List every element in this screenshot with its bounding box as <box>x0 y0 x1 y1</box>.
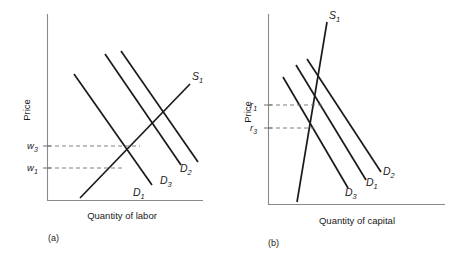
panel-b-demand-curve-d1 <box>296 65 366 180</box>
panel-b-x-axis-title: Quantity of capital <box>319 215 395 226</box>
economics-supply-demand-figure: w3 w1 S1 D2 D3 D1 Price Quantity of labo… <box>0 0 453 259</box>
panel-a-x-axis-title: Quantity of labor <box>87 210 157 221</box>
panel-a-label-d2: D2 <box>180 162 193 177</box>
panel-a-label-d3: D3 <box>160 174 173 189</box>
panel-b-price-label-r3: r3 <box>250 122 257 135</box>
panel-b-y-axis-title: Price <box>242 101 253 123</box>
panel-b-supply-curve-s1 <box>297 22 327 202</box>
panel-a-supply-curve-s1 <box>80 84 190 198</box>
panel-a-y-axis-title: Price <box>21 99 32 121</box>
panel-a-label-d1: D1 <box>133 186 145 201</box>
panel-a-caption: (a) <box>48 233 59 243</box>
panel-b-label-s1: S1 <box>329 9 340 24</box>
panel-b-label-d2: D2 <box>383 165 396 180</box>
panel-a-demand-curve-d3 <box>105 54 181 165</box>
panel-b-caption: (b) <box>268 238 279 248</box>
panel-a-price-label-w3: w3 <box>27 140 38 153</box>
panel-b-demand-curve-d2 <box>307 59 381 172</box>
panel-b: r1 r3 S1 D2 D1 D3 Price Quantity of capi… <box>242 9 445 248</box>
panel-b-label-d1: D1 <box>366 176 378 191</box>
panel-b-axes <box>269 14 446 205</box>
panel-b-label-d3: D3 <box>345 186 358 201</box>
panel-a-price-label-w1: w1 <box>27 162 38 175</box>
panel-a-label-s1: S1 <box>192 70 203 85</box>
panel-a-demand-curve-d2 <box>121 51 198 162</box>
panel-a: w3 w1 S1 D2 D3 D1 Price Quantity of labo… <box>21 14 203 243</box>
